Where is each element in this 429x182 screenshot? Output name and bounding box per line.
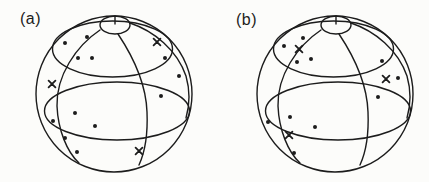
data-point-dot <box>376 95 380 99</box>
data-point-cross <box>296 46 303 53</box>
data-point-dot <box>159 94 163 98</box>
two-sphere-point-figure: (a) (b) <box>0 0 429 182</box>
data-point-dot <box>163 56 167 60</box>
data-point-dot <box>73 111 77 115</box>
data-point-dot <box>51 119 55 123</box>
data-point-dot <box>396 76 400 80</box>
data-point-dot <box>292 151 296 155</box>
data-point-dot <box>85 35 89 39</box>
data-point-dot <box>93 124 97 128</box>
data-point-dot <box>75 150 79 154</box>
data-point-cross <box>154 39 161 46</box>
sphere-b-data-points <box>266 36 400 155</box>
sphere-b-diagram <box>251 10 419 178</box>
meridian-center <box>339 34 368 165</box>
sphere-a-wireframe <box>36 16 192 172</box>
lower-latitude-circle <box>45 82 190 140</box>
meridian-right <box>130 23 189 118</box>
meridian-left <box>57 30 100 163</box>
data-point-dot <box>63 41 67 45</box>
data-point-dot <box>282 44 286 48</box>
data-point-dot <box>76 56 80 60</box>
data-point-cross <box>136 148 143 155</box>
data-point-cross <box>383 76 390 83</box>
data-point-dot <box>309 57 313 61</box>
data-point-dot <box>63 136 67 140</box>
meridian-center <box>118 34 147 165</box>
lower-latitude-circle <box>266 82 411 140</box>
data-point-dot <box>295 60 299 64</box>
data-point-dot <box>266 120 270 124</box>
data-point-dot <box>380 59 384 63</box>
meridian-right <box>351 23 410 118</box>
data-point-dot <box>288 115 292 119</box>
data-point-dot <box>177 74 181 78</box>
data-point-dot <box>90 56 94 60</box>
data-point-dot <box>313 125 317 129</box>
sphere-a-data-points <box>49 35 181 154</box>
upper-latitude-circle <box>274 21 394 77</box>
data-point-cross <box>49 81 56 88</box>
data-point-dot <box>301 36 305 40</box>
sphere-b-wireframe <box>257 16 413 172</box>
sphere-a-diagram <box>30 10 198 178</box>
upper-latitude-circle <box>53 21 173 77</box>
